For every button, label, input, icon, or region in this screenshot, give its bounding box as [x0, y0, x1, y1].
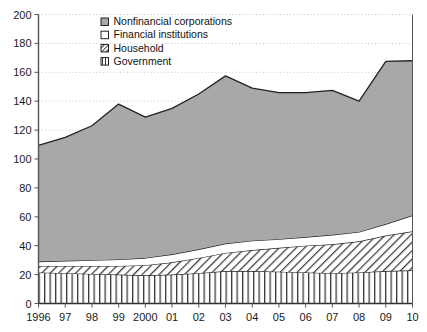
legend-label: Financial institutions	[114, 28, 209, 40]
x-tick-label: 03	[219, 311, 231, 323]
legend-swatch-solid-white	[101, 31, 109, 39]
y-tick-label: 120	[13, 124, 31, 136]
y-tick-label: 200	[13, 9, 31, 21]
x-tick-label: 04	[246, 311, 258, 323]
y-tick-label: 180	[13, 37, 31, 49]
legend-label: Government	[114, 55, 172, 67]
x-tick-label: 09	[380, 311, 392, 323]
legend-swatch-solid-gray	[101, 18, 109, 26]
x-tick-label: 06	[300, 311, 312, 323]
x-tick-label: 10	[406, 311, 418, 323]
y-tick-label: 140	[13, 95, 31, 107]
x-tick-label: 97	[59, 311, 71, 323]
x-tick-label: 02	[193, 311, 205, 323]
y-tick-label: 20	[19, 269, 31, 281]
stacked-area-chart: 020406080100120140160180200 199697989920…	[0, 0, 427, 332]
legend-label: Nonfinancial corporations	[114, 15, 232, 27]
area-government	[39, 270, 413, 303]
x-tick-label: 05	[273, 311, 285, 323]
legend-swatch-vertical-stripes	[101, 58, 109, 66]
y-tick-label: 160	[13, 66, 31, 78]
y-tick-label: 100	[13, 153, 31, 165]
x-tick-label: 98	[86, 311, 98, 323]
legend-label: Household	[114, 42, 164, 54]
y-tick-label: 80	[19, 182, 31, 194]
x-tick-label: 2000	[133, 311, 157, 323]
x-tick-label: 01	[166, 311, 178, 323]
x-tick-label: 1996	[26, 311, 50, 323]
chart-canvas: 020406080100120140160180200 199697989920…	[0, 0, 427, 332]
y-tick-label: 60	[19, 211, 31, 223]
x-tick-label: 07	[326, 311, 338, 323]
x-tick-label: 99	[113, 311, 125, 323]
y-tick-label: 40	[19, 240, 31, 252]
legend-swatch-diagonal-hatch	[101, 44, 109, 52]
x-tick-label: 08	[353, 311, 365, 323]
y-tick-label: 0	[25, 298, 31, 310]
